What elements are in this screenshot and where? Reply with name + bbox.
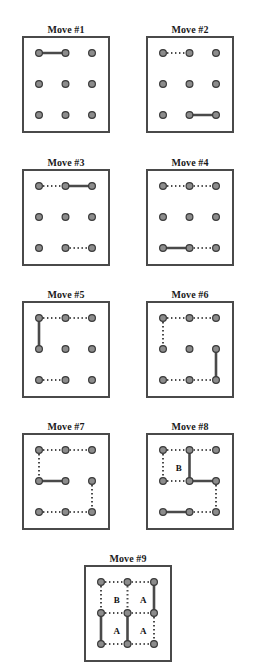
grid-dot	[89, 478, 96, 485]
grid-canvas	[24, 303, 107, 395]
grid-dot	[160, 81, 167, 88]
grid-dot	[89, 377, 96, 384]
panel-frame	[146, 36, 234, 133]
grid-dot	[124, 610, 131, 617]
grid-dot	[36, 50, 43, 57]
panel-frame	[22, 433, 110, 530]
move-sequence-figure: Move #1Move #2Move #3Move #4Move #5Move …	[0, 0, 260, 662]
grid-dot	[213, 447, 220, 454]
panel-move-7: Move #7	[22, 421, 110, 530]
grid-dot	[124, 641, 131, 648]
grid-canvas	[148, 435, 231, 527]
grid-dot	[186, 377, 193, 384]
grid-dot	[213, 478, 220, 485]
panel-title: Move #7	[22, 421, 110, 433]
grid-dot	[36, 214, 43, 221]
panel-move-5: Move #5	[22, 289, 110, 398]
grid-dot	[160, 50, 167, 57]
grid-dot	[186, 112, 193, 119]
grid-dot	[151, 641, 158, 648]
grid-dot	[186, 509, 193, 516]
grid-dot	[62, 50, 69, 57]
grid-dot	[160, 377, 167, 384]
grid-canvas	[86, 567, 169, 659]
panel-title: Move #9	[84, 553, 172, 565]
panel-move-2: Move #2	[146, 24, 234, 133]
panel-frame	[22, 169, 110, 266]
grid-dot	[62, 377, 69, 384]
grid-dot	[62, 245, 69, 252]
grid-dot	[186, 447, 193, 454]
panel-title: Move #3	[22, 157, 110, 169]
grid-dot	[160, 112, 167, 119]
grid-canvas	[148, 38, 231, 130]
grid-dot	[213, 509, 220, 516]
grid-dot	[89, 183, 96, 190]
grid-dot	[213, 315, 220, 322]
grid-canvas	[24, 171, 107, 263]
panel-frame	[146, 169, 234, 266]
grid-dot	[89, 509, 96, 516]
panel-move-1: Move #1	[22, 24, 110, 133]
panel-move-9: Move #9BAAA	[84, 553, 172, 662]
grid-dot	[186, 315, 193, 322]
grid-dot	[89, 447, 96, 454]
grid-canvas	[24, 435, 107, 527]
panel-move-8: Move #8B	[146, 421, 234, 530]
grid-dot	[62, 183, 69, 190]
grid-dot	[89, 112, 96, 119]
grid-dot	[89, 245, 96, 252]
panel-title: Move #4	[146, 157, 234, 169]
grid-dot	[89, 50, 96, 57]
grid-dot	[213, 377, 220, 384]
grid-dot	[36, 478, 43, 485]
panel-title: Move #1	[22, 24, 110, 36]
grid-dot	[36, 183, 43, 190]
grid-dot	[186, 183, 193, 190]
grid-dot	[160, 214, 167, 221]
grid-dot	[89, 81, 96, 88]
grid-dot	[213, 81, 220, 88]
grid-dot	[160, 346, 167, 353]
grid-dot	[160, 447, 167, 454]
panel-frame	[22, 36, 110, 133]
grid-dot	[186, 214, 193, 221]
grid-dot	[62, 214, 69, 221]
panel-title: Move #2	[146, 24, 234, 36]
grid-dot	[36, 447, 43, 454]
grid-dot	[160, 183, 167, 190]
grid-dot	[89, 346, 96, 353]
grid-dot	[62, 346, 69, 353]
grid-dot	[98, 610, 105, 617]
grid-dot	[89, 315, 96, 322]
panel-move-6: Move #6	[146, 289, 234, 398]
grid-dot	[124, 579, 131, 586]
grid-dot	[62, 81, 69, 88]
grid-dot	[36, 112, 43, 119]
grid-dot	[213, 50, 220, 57]
grid-dot	[62, 509, 69, 516]
grid-dot	[186, 50, 193, 57]
grid-dot	[160, 478, 167, 485]
grid-dot	[36, 377, 43, 384]
grid-dot	[160, 315, 167, 322]
grid-dot	[151, 579, 158, 586]
grid-dot	[213, 346, 220, 353]
grid-dot	[98, 579, 105, 586]
grid-dot	[36, 315, 43, 322]
grid-dot	[36, 346, 43, 353]
panel-move-4: Move #4	[146, 157, 234, 266]
grid-dot	[62, 447, 69, 454]
grid-dot	[213, 112, 220, 119]
grid-dot	[62, 315, 69, 322]
grid-dot	[186, 81, 193, 88]
grid-dot	[186, 346, 193, 353]
grid-dot	[36, 245, 43, 252]
grid-dot	[36, 81, 43, 88]
grid-dot	[89, 214, 96, 221]
panel-title: Move #6	[146, 289, 234, 301]
panel-frame	[22, 301, 110, 398]
panel-frame	[146, 301, 234, 398]
grid-dot	[213, 183, 220, 190]
grid-dot	[160, 245, 167, 252]
